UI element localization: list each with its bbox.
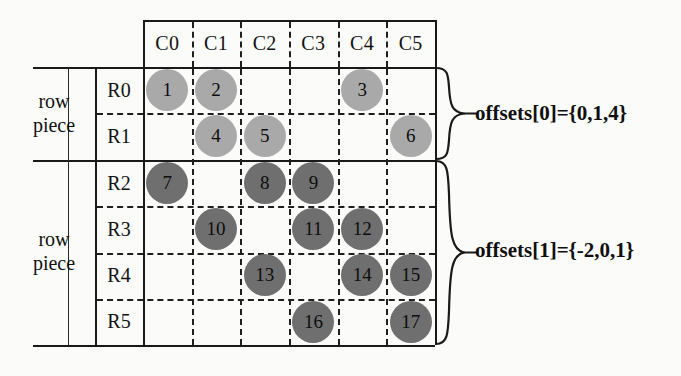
row-header-r4: R4 [95, 253, 143, 299]
nonzero-entry-1: 1 [146, 69, 188, 111]
row-header-r2: R2 [95, 160, 143, 206]
column-header-c0-label: C0 [155, 32, 179, 55]
column-header-c5: C5 [386, 20, 435, 67]
body-divider-c4-c5 [386, 69, 388, 345]
nonzero-entry-15: 15 [390, 254, 432, 296]
body-divider-c3-c4 [338, 69, 340, 345]
body-bottom-border [33, 345, 435, 347]
body-divider-c0-c1 [192, 69, 194, 345]
column-header-c1: C1 [192, 20, 241, 67]
nonzero-entry-12: 12 [341, 208, 383, 250]
column-header-c3: C3 [289, 20, 338, 67]
nonzero-entry-17: 17 [390, 301, 432, 343]
row-piece-diagram: C0 C1 C2 C3 C4 C5 R0 R1 R2 R3 [0, 0, 681, 376]
column-header-c3-label: C3 [301, 32, 325, 55]
row-header-r5-label: R5 [107, 310, 130, 333]
body-divider-c2-c3 [289, 69, 291, 345]
column-header-c1-label: C1 [204, 32, 228, 55]
column-header-c2-label: C2 [253, 32, 277, 55]
nonzero-entry-4: 4 [195, 115, 237, 157]
nonzero-entry-2: 2 [195, 69, 237, 111]
column-header-c0: C0 [143, 20, 192, 67]
nonzero-entry-5: 5 [244, 115, 286, 157]
row-header-r3: R3 [95, 206, 143, 252]
row-piece-caption-1-line2: piece [33, 252, 75, 276]
row-divider-r2-r3 [97, 206, 435, 208]
nonzero-entry-13: 13 [244, 254, 286, 296]
nonzero-entry-10: 10 [195, 208, 237, 250]
nonzero-entry-8: 8 [244, 162, 286, 204]
column-header-c2: C2 [240, 20, 289, 67]
row-piece-brace-0 [435, 67, 467, 160]
row-header-r0: R0 [95, 67, 143, 113]
row-header-r0-label: R0 [107, 79, 130, 102]
row-piece-caption-1: row piece [14, 216, 94, 288]
row-header-r1-label: R1 [107, 125, 130, 148]
row-piece-annotation-0: offsets[0]={0,1,4} [475, 101, 627, 126]
body-divider-c1-c2 [240, 69, 242, 345]
nonzero-entry-11: 11 [292, 208, 334, 250]
row-piece-caption-1-line1: row [38, 228, 69, 252]
row-piece-caption-0-line2: piece [33, 114, 75, 138]
nonzero-entry-14: 14 [341, 254, 383, 296]
nonzero-entry-3: 3 [341, 69, 383, 111]
column-header-c5-label: C5 [399, 32, 423, 55]
row-header-r4-label: R4 [107, 264, 130, 287]
row-piece-caption-0-line1: row [38, 90, 69, 114]
nonzero-entry-7: 7 [146, 162, 188, 204]
row-piece-separator [33, 160, 435, 162]
row-piece-brace-1 [435, 160, 467, 345]
row-piece-annotation-1-text: offsets[1]={-2,0,1} [475, 238, 634, 262]
row-piece-annotation-0-text: offsets[0]={0,1,4} [475, 101, 627, 125]
nonzero-entry-16: 16 [292, 301, 334, 343]
nonzero-entry-9: 9 [292, 162, 334, 204]
header-right-border [435, 20, 437, 67]
row-divider-r4-r5 [97, 299, 435, 301]
row-header-r3-label: R3 [107, 218, 130, 241]
column-header-c4-label: C4 [350, 32, 374, 55]
row-header-r1: R1 [95, 113, 143, 159]
nonzero-entry-6: 6 [390, 115, 432, 157]
row-piece-annotation-1: offsets[1]={-2,0,1} [475, 238, 634, 263]
row-header-r2-label: R2 [107, 172, 130, 195]
column-header-c4: C4 [338, 20, 387, 67]
row-piece-caption-0: row piece [14, 78, 94, 150]
row-header-r5: R5 [95, 299, 143, 345]
body-top-border [33, 67, 435, 69]
